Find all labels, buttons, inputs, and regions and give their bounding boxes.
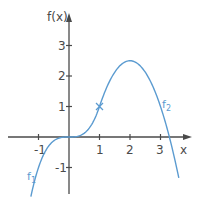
x-axis-label: x [180,143,187,157]
curve-label-f2: f2 [162,98,171,113]
y-tick-label: 2 [58,69,66,83]
y-axis-label: f(x) [47,10,68,24]
junction-marker-icon [96,103,103,110]
x-tick-label: 2 [126,143,134,157]
y-tick-label: -1 [55,161,67,175]
x-tick-label: 1 [96,143,104,157]
y-tick-label: 1 [58,100,66,114]
y-tick-label: 3 [58,39,66,53]
curve-f2 [100,61,179,178]
function-graph: -1 1 2 3 -1 1 2 3 f(x) x f1 f2 [0,0,200,202]
x-axis-arrow-icon [183,134,192,140]
curve-label-f1: f1 [27,170,36,185]
x-tick-label: 3 [156,143,164,157]
